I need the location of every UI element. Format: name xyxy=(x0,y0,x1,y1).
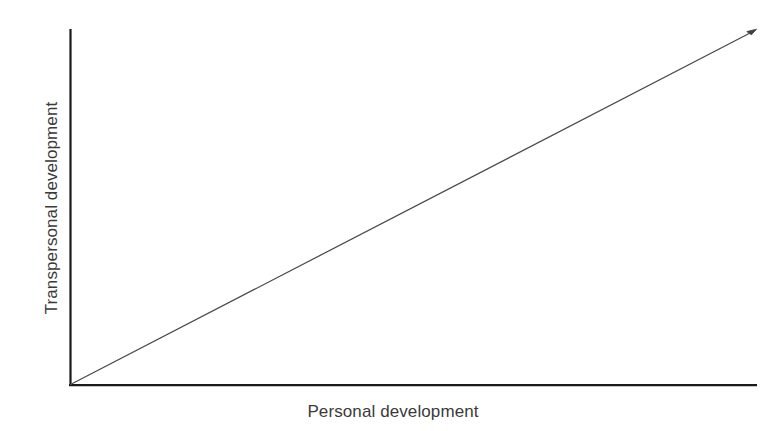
trend-line xyxy=(71,32,753,385)
x-axis-label: Personal development xyxy=(307,403,478,420)
figure-canvas: Transpersonal development Personal devel… xyxy=(0,0,784,431)
y-axis-label: Transpersonal development xyxy=(43,102,60,315)
chart-plot-area xyxy=(0,0,784,431)
